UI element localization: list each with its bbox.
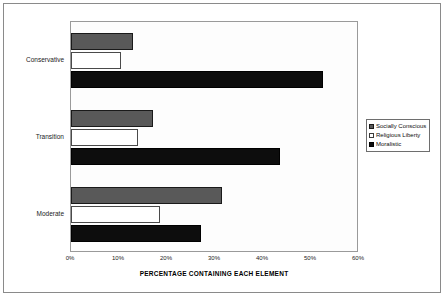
bar-group: [71, 22, 357, 99]
chart-legend: Socially ConsciousReligious LibertyMoral…: [366, 119, 430, 152]
x-tick-label: 60%: [352, 255, 364, 261]
legend-item: Religious Liberty: [369, 131, 426, 140]
legend-item-label: Socially Conscious: [376, 122, 426, 131]
bar: [71, 52, 121, 69]
legend-swatch-icon: [369, 133, 374, 138]
bar-chart-figure: ERA ConservativeTransitionModerate 0%10%…: [0, 0, 446, 297]
bar: [71, 187, 222, 204]
legend-swatch-icon: [369, 124, 374, 129]
legend-item: Moralistic: [369, 140, 426, 149]
bar: [71, 225, 201, 242]
x-tick-label: 10%: [112, 255, 124, 261]
x-tick-label: 30%: [208, 255, 220, 261]
x-tick-label: 50%: [304, 255, 316, 261]
x-axis-title: PERCENTAGE CONTAINING EACH ELEMENT: [70, 270, 358, 277]
plot-area: [70, 21, 358, 252]
bar: [71, 129, 138, 146]
y-tick-label: Moderate: [37, 210, 64, 217]
bar: [71, 110, 153, 127]
x-tick-label: 0%: [66, 255, 75, 261]
x-axis-tick-labels: 0%10%20%30%40%50%60%: [70, 255, 358, 267]
bar: [71, 206, 160, 223]
y-axis-tick-labels: ConservativeTransitionModerate: [14, 21, 68, 252]
y-tick-label: Conservative: [26, 56, 64, 63]
legend-item-label: Religious Liberty: [376, 131, 420, 140]
bar-group: [71, 176, 357, 253]
legend-item-label: Moralistic: [376, 140, 401, 149]
x-tick-label: 40%: [256, 255, 268, 261]
y-tick-label: Transition: [36, 133, 64, 140]
bar: [71, 33, 133, 50]
bar: [71, 148, 280, 165]
bar: [71, 71, 323, 88]
legend-item: Socially Conscious: [369, 122, 426, 131]
bar-group: [71, 99, 357, 176]
x-tick-label: 20%: [160, 255, 172, 261]
legend-swatch-icon: [369, 142, 374, 147]
